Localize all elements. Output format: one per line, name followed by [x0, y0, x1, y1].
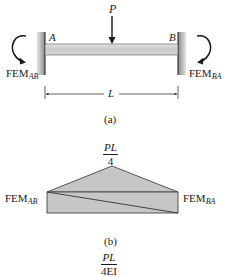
diagram-fem-ba-base: FEM [183, 192, 206, 204]
fem-ba-base: FEM [189, 67, 212, 79]
fem-ab-subscript: AB [29, 72, 39, 81]
diagram-fem-ab-subscript: AB [28, 197, 38, 206]
caption-b: (b) [104, 236, 117, 247]
diagram-fem-ba-subscript: BA [206, 197, 216, 206]
fem-ab-label: FEMAB [6, 68, 38, 81]
diagram-fem-ab-label: FEMAB [5, 193, 37, 206]
support-b-label: B [169, 32, 176, 43]
diagram-fem-ab-base: FEM [5, 192, 28, 204]
fem-ab-base: FEM [6, 67, 29, 79]
moment-arrow-left-icon [13, 36, 27, 65]
load-label: P [109, 3, 116, 15]
peak-denominator: 4 [108, 155, 114, 167]
peak-numerator: PL [103, 142, 118, 154]
span-label: L [108, 88, 114, 99]
support-a-label: A [49, 32, 56, 43]
point-load-arrow-icon [109, 16, 116, 44]
peak-moment-label: PL 4 [103, 142, 118, 167]
diagram-fem-ba-label: FEMBA [183, 193, 215, 206]
fem-ba-label: FEMBA [189, 68, 221, 81]
partial-numerator: PL [102, 252, 117, 264]
partial-peak-label: PL 4EI [101, 252, 117, 277]
caption-a: (a) [104, 114, 116, 125]
right-fixed-support [178, 32, 186, 75]
partial-denominator: 4EI [101, 265, 117, 277]
beam [45, 44, 178, 55]
moment-arrow-right-icon [197, 36, 211, 65]
moment-diagram [47, 166, 178, 213]
fem-ba-subscript: BA [212, 72, 222, 81]
